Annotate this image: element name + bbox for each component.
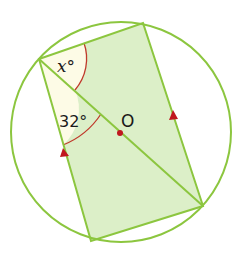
angle-x-label: x°	[57, 56, 75, 76]
diagram-canvas: x° 32° O	[0, 0, 249, 263]
angle-32-label: 32°	[59, 112, 87, 131]
centre-label: O	[121, 111, 134, 131]
